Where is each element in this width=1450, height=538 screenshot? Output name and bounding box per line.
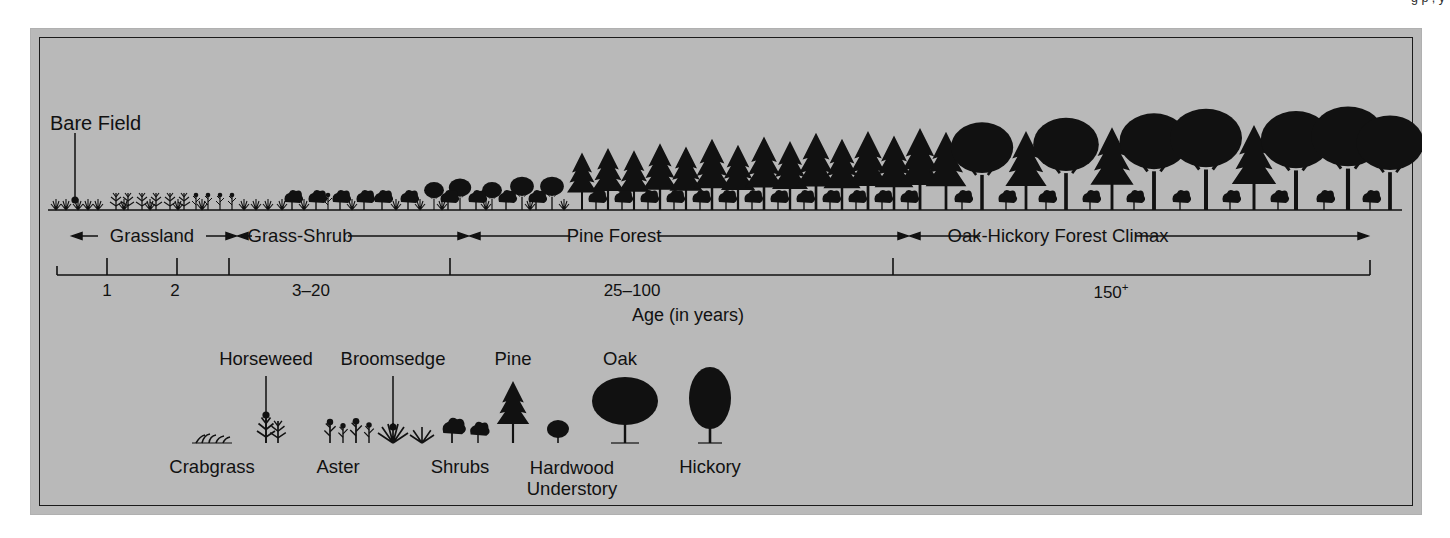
axis-tick-label-1: 1 (102, 282, 111, 299)
axis-tick-label-150-plus: 150+ (1093, 282, 1128, 301)
bare-field-leader (71, 133, 78, 204)
stage-label-grassland: Grassland (110, 227, 194, 246)
axis-title: Age (in years) (632, 306, 744, 324)
legend-label-pine: Pine (494, 350, 531, 369)
legend-label-crabgrass: Crabgrass (169, 458, 254, 477)
axis-tick-150-superscript: + (1122, 281, 1129, 293)
legend-specimens (192, 367, 731, 443)
legend-label-horseweed: Horseweed (219, 350, 313, 369)
callout-bare-field: Bare Field (50, 113, 141, 133)
age-axis (57, 258, 1370, 275)
legend-hardwood-line2: Understory (527, 478, 617, 499)
stage-label-oak-hickory: Oak-Hickory Forest Climax (948, 227, 1169, 246)
figure-root: g p , y (0, 0, 1450, 538)
cut-off-caption: g p , y (1035, 0, 1445, 5)
stage-label-pine-forest: Pine Forest (567, 227, 662, 246)
succession-illustration (30, 28, 1422, 515)
legend-label-broomsedge: Broomsedge (341, 350, 446, 369)
stage-label-grass-shrub: Grass-Shrub (248, 227, 353, 246)
legend-label-hickory: Hickory (679, 458, 741, 477)
axis-tick-label-2: 2 (170, 282, 179, 299)
axis-tick-label-3-20: 3–20 (292, 282, 330, 299)
illustration-panel: Bare Field Grassland Grass-Shrub Pine Fo… (30, 28, 1422, 515)
axis-tick-150-value: 150 (1093, 283, 1121, 302)
legend-label-aster: Aster (316, 458, 359, 477)
legend-label-hardwood-understory: HardwoodUnderstory (527, 458, 617, 499)
legend-label-oak: Oak (603, 350, 637, 369)
legend-hardwood-line1: Hardwood (530, 457, 614, 478)
axis-tick-label-25-100: 25–100 (604, 282, 661, 299)
legend-label-shrubs: Shrubs (431, 458, 490, 477)
